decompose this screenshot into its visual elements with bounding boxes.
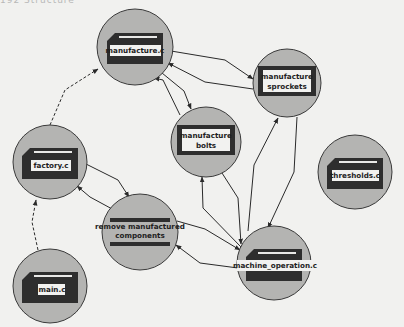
edge-factory-to-remove: [86, 164, 129, 197]
edge-factory-to-manufacture: [50, 69, 98, 125]
edge-sprockets-to-manufacture: [168, 63, 253, 89]
node-manufacture-sprockets[interactable]: manufacture sprockets: [253, 49, 321, 117]
edge-remove-to-machine: [177, 221, 240, 250]
node-label-line-2: sprockets: [267, 82, 306, 91]
node-label-line-2: bolts: [196, 141, 216, 150]
edge-bolts-to-machine: [222, 173, 241, 244]
node-remove-manufactured-components[interactable]: remove manufactured components: [95, 194, 185, 270]
edge-machine-to-remove: [176, 245, 238, 268]
structure-diagram: manufacture.c manufacture sprockets manu…: [0, 0, 404, 327]
node-label: thresholds.c: [330, 171, 380, 180]
edge-main-to-factory: [32, 200, 38, 250]
node-label-line-1: remove manufactured: [95, 222, 185, 231]
node-main-c[interactable]: main.c: [13, 249, 87, 323]
node-thresholds-c[interactable]: thresholds.c: [318, 135, 392, 209]
node-label: machine_operation.c: [233, 261, 317, 270]
node-manufacture-bolts[interactable]: manufacture bolts: [171, 107, 241, 177]
edge-manufacture-to-bolts: [162, 73, 191, 109]
edge-remove-to-factory: [77, 186, 114, 210]
node-manufacture-c[interactable]: manufacture.c: [97, 9, 173, 85]
edge-bolts-to-manufacture: [154, 78, 180, 115]
edge-sprockets-to-machine: [268, 117, 297, 228]
node-label-line-2: components: [115, 231, 165, 240]
node-label-line-1: manufacture: [180, 131, 232, 140]
node-machine-operation-c[interactable]: machine_operation.c: [233, 226, 317, 300]
node-label: factory.c: [33, 161, 68, 170]
node-factory-c[interactable]: factory.c: [13, 125, 87, 199]
node-label-line-1: manufacture: [261, 72, 313, 81]
edge-manufacture-to-sprockets: [171, 51, 253, 79]
node-label: manufacture.c: [106, 46, 165, 55]
datastore-bar-bottom: [110, 242, 170, 246]
edge-machine-to-sprockets: [248, 118, 278, 231]
node-label: main.c: [39, 285, 66, 294]
edge-machine-to-bolts: [202, 177, 241, 247]
